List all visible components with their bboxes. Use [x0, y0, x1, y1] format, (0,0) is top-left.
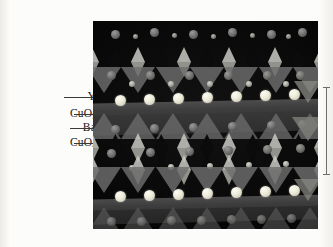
atom-y	[231, 91, 242, 102]
edge-highlight-top	[294, 81, 318, 103]
atom-y	[173, 189, 184, 200]
pyramid-row-top	[93, 67, 318, 93]
atom-ba	[189, 30, 198, 39]
atom-ba	[111, 30, 120, 39]
atom-ba	[137, 217, 146, 226]
figure-page: Y CuO5 Ba CuO4	[0, 0, 333, 247]
cuo5-pyramid	[190, 67, 224, 93]
atom-y	[115, 191, 126, 202]
atom-ba	[263, 145, 272, 154]
atom-ba	[146, 148, 155, 157]
atom-cu	[286, 34, 291, 39]
cuo5-pyramid	[156, 67, 190, 93]
atom-ba	[150, 124, 159, 133]
atom-ba	[185, 147, 194, 156]
atom-cu	[211, 34, 216, 39]
atom-ba	[197, 216, 206, 225]
atom-o	[129, 81, 135, 87]
atom-ba	[257, 215, 266, 224]
scale-bar-cap-bottom	[323, 174, 330, 175]
scale-bar	[326, 87, 327, 175]
cuo5-pyramid	[293, 207, 318, 229]
label-column: Y CuO5 Ba CuO4	[0, 88, 96, 158]
atom-o	[168, 81, 174, 87]
atom-y	[202, 92, 213, 103]
crystal-structure-image	[93, 21, 318, 229]
atom-ba	[298, 28, 307, 37]
atom-y	[202, 188, 213, 199]
atom-ba	[224, 146, 233, 155]
cuo5-pyramid	[156, 167, 190, 193]
atom-y	[115, 95, 126, 106]
atom-ba	[224, 71, 233, 80]
atom-ba	[189, 123, 198, 132]
atom-cu	[172, 33, 177, 38]
atom-ba	[267, 30, 276, 39]
atom-ba	[296, 144, 305, 153]
atom-o	[207, 81, 213, 87]
atom-ba	[107, 217, 116, 226]
atom-y	[260, 186, 271, 197]
atom-y	[173, 93, 184, 104]
atom-y	[144, 94, 155, 105]
atom-ba	[287, 214, 296, 223]
atom-ba	[267, 121, 276, 130]
cuo5-pyramid	[190, 207, 224, 229]
atom-y	[231, 187, 242, 198]
atom-y	[260, 90, 271, 101]
edge-highlight-mid	[292, 117, 318, 141]
atom-cu	[133, 34, 138, 39]
atom-ba	[263, 71, 272, 80]
atom-ba	[185, 71, 194, 80]
atom-y	[144, 190, 155, 201]
atom-ba	[107, 71, 116, 80]
atom-cu	[250, 33, 255, 38]
edge-highlight-bottom	[294, 179, 318, 201]
atom-ba	[167, 216, 176, 225]
atom-ba	[228, 28, 237, 37]
atom-ba	[228, 122, 237, 131]
structure-canvas	[93, 21, 318, 229]
atom-ba	[146, 71, 155, 80]
cuo5-pyramid	[93, 67, 121, 93]
cuo5-pyramid	[93, 167, 121, 193]
atom-o	[283, 81, 289, 87]
atom-ba	[296, 71, 305, 80]
atom-o	[246, 81, 252, 87]
atom-ba	[107, 149, 116, 158]
atom-ba	[227, 215, 236, 224]
atom-ba	[150, 28, 159, 37]
